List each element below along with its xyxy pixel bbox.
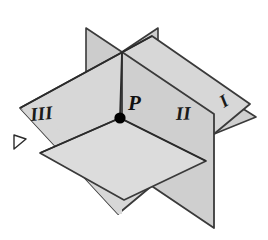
left-edge-notch [14,135,26,149]
point-p-label: P [127,91,141,115]
geometry-figure: P III II I [0,0,268,240]
planes-diagram-svg: P III II I [0,0,268,240]
point-p-marker [114,112,125,123]
plane-three-label: III [28,102,54,125]
plane-two-label: II [174,102,191,124]
